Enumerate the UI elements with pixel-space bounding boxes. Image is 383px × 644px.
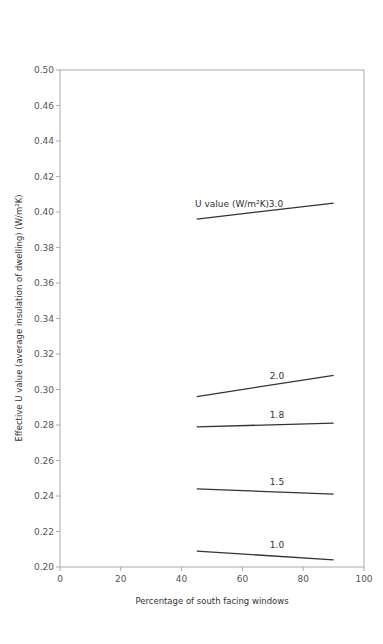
y-tick-label: 0.40 (34, 207, 54, 217)
y-axis-title: Effective U value (average insulation of… (14, 194, 24, 441)
series-label: 1.8 (270, 410, 285, 420)
x-axis-title: Percentage of south facing windows (135, 596, 289, 606)
y-tick-label: 0.34 (34, 314, 54, 324)
series-label: 3.0 (269, 199, 284, 209)
line-chart: 0.200.220.240.260.280.300.320.340.360.38… (0, 0, 383, 644)
y-tick-label: 0.28 (34, 420, 54, 430)
x-tick-label: 20 (115, 574, 127, 584)
series-line-2-0 (197, 375, 334, 396)
y-tick-label: 0.36 (34, 278, 54, 288)
x-tick-label: 0 (57, 574, 63, 584)
y-tick-label: 0.42 (34, 172, 54, 182)
y-tick-label: 0.20 (34, 562, 54, 572)
plot-area (60, 70, 364, 567)
y-tick-label: 0.50 (34, 65, 54, 75)
y-tick-label: 0.22 (34, 527, 54, 537)
y-tick-label: 0.38 (34, 243, 54, 253)
x-tick-label: 80 (297, 574, 309, 584)
series-label: 1.0 (270, 540, 285, 550)
series-lines: 3.02.01.81.51.0 (197, 199, 334, 560)
legend-title: U value (W/m²K) (195, 199, 269, 209)
y-tick-label: 0.26 (34, 456, 54, 466)
y-axis: 0.200.220.240.260.280.300.320.340.360.38… (34, 65, 60, 572)
x-tick-label: 100 (355, 574, 372, 584)
y-tick-label: 0.24 (34, 491, 54, 501)
y-tick-label: 0.30 (34, 385, 54, 395)
y-tick-label: 0.46 (34, 101, 54, 111)
series-line-1-8 (197, 423, 334, 427)
x-tick-label: 60 (237, 574, 249, 584)
y-tick-label: 0.32 (34, 349, 54, 359)
x-tick-label: 40 (176, 574, 188, 584)
series-label: 2.0 (270, 371, 285, 381)
series-label: 1.5 (270, 477, 284, 487)
series-line-1-0 (197, 551, 334, 560)
x-axis: 020406080100 (57, 567, 373, 584)
y-tick-label: 0.44 (34, 136, 54, 146)
series-line-1-5 (197, 489, 334, 494)
